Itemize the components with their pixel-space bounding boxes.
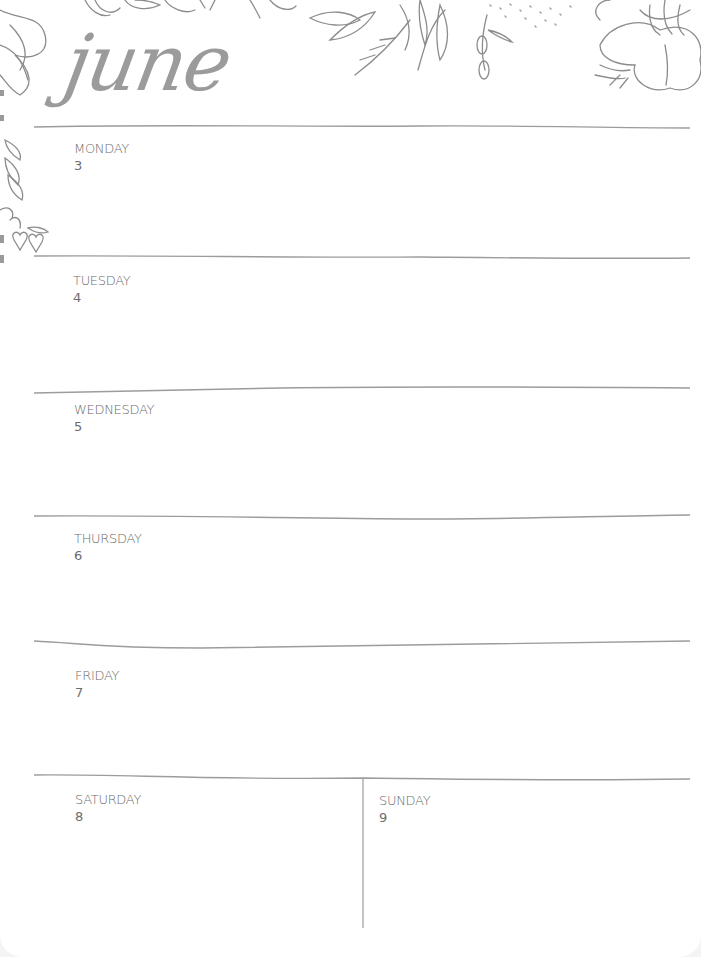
planner-page: june MONDAY 3 TUESDAY 4 WEDNESDAY 5 THUR… xyxy=(0,0,701,957)
day-name: MONDAY xyxy=(74,141,129,157)
day-date: 7 xyxy=(75,684,119,701)
day-cell-friday[interactable] xyxy=(34,648,690,776)
day-cell-tuesday[interactable] xyxy=(34,258,690,388)
day-cell-monday[interactable] xyxy=(34,128,690,256)
day-date: 5 xyxy=(74,418,154,435)
day-date: 9 xyxy=(379,809,430,826)
divider-line xyxy=(34,641,690,648)
day-block: SUNDAY 9 xyxy=(379,793,430,826)
day-name: FRIDAY xyxy=(75,668,119,684)
day-block: WEDNESDAY 5 xyxy=(74,402,154,435)
day-name: SUNDAY xyxy=(379,793,430,809)
day-block: TUESDAY 4 xyxy=(73,273,130,306)
day-block: FRIDAY 7 xyxy=(75,668,119,701)
day-date: 4 xyxy=(73,289,130,306)
day-block: THURSDAY 6 xyxy=(74,531,142,564)
day-name: THURSDAY xyxy=(74,531,142,547)
day-block: MONDAY 3 xyxy=(74,141,129,174)
day-name: WEDNESDAY xyxy=(74,402,154,418)
day-date: 3 xyxy=(74,157,129,174)
day-date: 6 xyxy=(74,547,142,564)
day-name: SATURDAY xyxy=(75,792,141,808)
day-name: TUESDAY xyxy=(73,273,130,289)
day-block: SATURDAY 8 xyxy=(75,792,141,825)
day-date: 8 xyxy=(75,808,141,825)
